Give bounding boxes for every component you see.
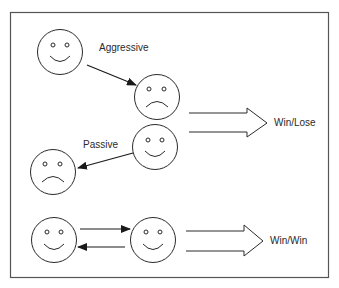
happy-face-icon [131,218,176,263]
outcome-arrow-icon [189,108,267,137]
passive-arrow-icon [78,153,133,168]
win-lose-label: Win/Lose [274,117,316,129]
happy-face-icon [32,218,77,263]
sad-face-icon [31,150,76,195]
passive-label: Passive [83,139,118,151]
happy-face-icon [133,125,178,170]
outcome-arrow-icon [186,225,263,256]
happy-face-icon [38,30,83,75]
win-win-label: Win/Win [270,235,307,247]
sad-face-icon [135,75,180,120]
aggressive-arrow-icon [87,65,136,85]
aggressive-label: Aggressive [99,42,148,54]
